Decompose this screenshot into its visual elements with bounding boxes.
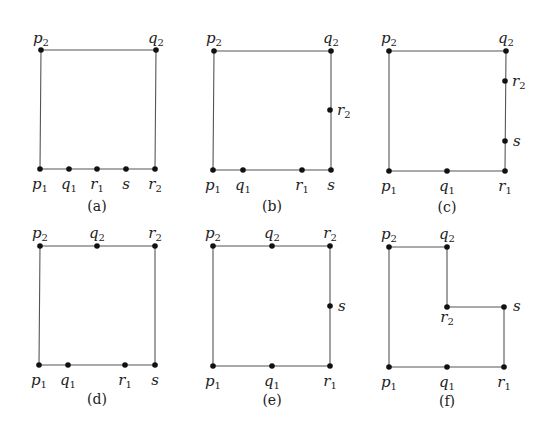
vertex-label: q1 bbox=[61, 175, 77, 194]
panel-caption: (b) bbox=[262, 198, 282, 214]
vertex-label: r2 bbox=[440, 308, 454, 327]
vertex-q1 bbox=[240, 167, 246, 173]
vertex-label: s bbox=[513, 297, 521, 315]
vertex-label: r1 bbox=[295, 176, 309, 195]
panel-d: p2q2r2p1q1r1s(d) bbox=[31, 224, 162, 407]
polygon-outline bbox=[213, 246, 330, 366]
vertex-label: q2 bbox=[439, 225, 455, 244]
vertex-q1 bbox=[269, 363, 275, 369]
vertex-q1 bbox=[444, 364, 450, 370]
vertex-p2 bbox=[210, 243, 216, 249]
vertex-s bbox=[327, 303, 333, 309]
vertex-label: s bbox=[151, 371, 159, 389]
vertex-p1 bbox=[37, 166, 43, 172]
panel-a: p2q2p1q1r1sr2(a) bbox=[32, 29, 164, 214]
vertex-label: q1 bbox=[264, 372, 280, 391]
vertex-r1 bbox=[299, 167, 305, 173]
vertex-s bbox=[123, 166, 129, 172]
vertex-r1 bbox=[327, 363, 333, 369]
vertex-label: q2 bbox=[148, 29, 164, 48]
vertex-p2 bbox=[38, 47, 44, 53]
vertex-p2 bbox=[386, 244, 392, 250]
vertex-label: p1 bbox=[205, 372, 221, 391]
vertex-label: q2 bbox=[264, 224, 280, 243]
vertex-label: p2 bbox=[381, 225, 397, 244]
panel-e: p2q2r2sp1q1r1(e) bbox=[205, 224, 346, 408]
vertex-s bbox=[328, 167, 334, 173]
vertex-label: p1 bbox=[205, 176, 221, 195]
vertex-label: r1 bbox=[497, 373, 511, 392]
vertex-label: p1 bbox=[31, 371, 47, 390]
vertex-s bbox=[501, 304, 507, 310]
vertex-r2 bbox=[152, 166, 158, 172]
vertex-label: r2 bbox=[148, 224, 162, 243]
panel-caption: (f) bbox=[439, 393, 455, 409]
vertex-label: r2 bbox=[337, 101, 351, 120]
vertex-label: q2 bbox=[89, 224, 105, 243]
vertex-label: q1 bbox=[60, 371, 76, 390]
vertex-label: r1 bbox=[90, 175, 104, 194]
panel-f: p2q2r2sp1q1r1(f) bbox=[381, 225, 521, 409]
vertex-q2 bbox=[269, 243, 275, 249]
vertex-label: p1 bbox=[381, 373, 397, 392]
vertex-label: r1 bbox=[323, 372, 337, 391]
vertex-r1 bbox=[94, 166, 100, 172]
panel-c: p2q2r2sp1q1r1(c) bbox=[381, 29, 526, 215]
vertex-r2 bbox=[327, 107, 333, 113]
vertex-label: p1 bbox=[32, 175, 48, 194]
polygon-outline bbox=[40, 50, 156, 169]
vertex-p2 bbox=[37, 243, 43, 249]
vertex-label: s bbox=[122, 175, 130, 193]
vertex-label: p2 bbox=[33, 29, 49, 48]
vertex-label: q2 bbox=[323, 29, 339, 48]
vertex-q1 bbox=[444, 168, 450, 174]
vertex-r1 bbox=[501, 364, 507, 370]
panel-caption: (e) bbox=[262, 392, 281, 408]
vertex-q2 bbox=[444, 244, 450, 250]
panel-b: p2q2r2p1q1r1s(b) bbox=[205, 29, 351, 214]
panel-caption: (a) bbox=[87, 198, 106, 214]
vertex-r2 bbox=[327, 243, 333, 249]
vertex-p1 bbox=[36, 362, 42, 368]
vertex-label: r1 bbox=[118, 371, 132, 390]
vertex-q2 bbox=[153, 47, 159, 53]
vertex-label: r1 bbox=[498, 177, 512, 196]
vertex-label: s bbox=[513, 132, 521, 150]
panel-caption: (d) bbox=[87, 391, 107, 407]
vertex-label: q1 bbox=[439, 177, 455, 196]
polygon-outline bbox=[389, 51, 506, 171]
vertex-p1 bbox=[386, 364, 392, 370]
vertex-q2 bbox=[328, 48, 334, 54]
vertex-label: p2 bbox=[206, 29, 222, 48]
vertex-label: r2 bbox=[148, 175, 162, 194]
vertex-label: r2 bbox=[512, 72, 526, 91]
vertex-q2 bbox=[503, 48, 509, 54]
vertex-label: p2 bbox=[381, 29, 397, 48]
vertex-r1 bbox=[122, 362, 128, 368]
polygon-outline bbox=[39, 246, 155, 365]
panel-caption: (c) bbox=[438, 199, 457, 215]
vertex-label: q1 bbox=[439, 373, 455, 392]
vertex-p1 bbox=[210, 167, 216, 173]
vertex-q2 bbox=[94, 243, 100, 249]
vertex-label: p2 bbox=[32, 224, 48, 243]
vertex-p1 bbox=[386, 168, 392, 174]
vertex-p2 bbox=[386, 48, 392, 54]
vertex-p1 bbox=[210, 363, 216, 369]
vertex-label: p2 bbox=[205, 224, 221, 243]
vertex-r2 bbox=[152, 243, 158, 249]
vertex-r1 bbox=[502, 168, 508, 174]
polygon-outline bbox=[213, 51, 331, 170]
vertex-label: r2 bbox=[323, 224, 337, 243]
vertex-label: p1 bbox=[381, 177, 397, 196]
vertex-s bbox=[502, 138, 508, 144]
diagram-canvas: p2q2p1q1r1sr2(a)p2q2r2p1q1r1s(b)p2q2r2sp… bbox=[0, 0, 555, 436]
vertex-s bbox=[152, 362, 158, 368]
vertex-label: s bbox=[338, 297, 346, 315]
vertex-label: q2 bbox=[498, 29, 514, 48]
vertex-label: s bbox=[327, 176, 335, 194]
vertex-q1 bbox=[66, 166, 72, 172]
vertex-r2 bbox=[502, 78, 508, 84]
vertex-p2 bbox=[211, 48, 217, 54]
vertex-label: q1 bbox=[235, 176, 251, 195]
